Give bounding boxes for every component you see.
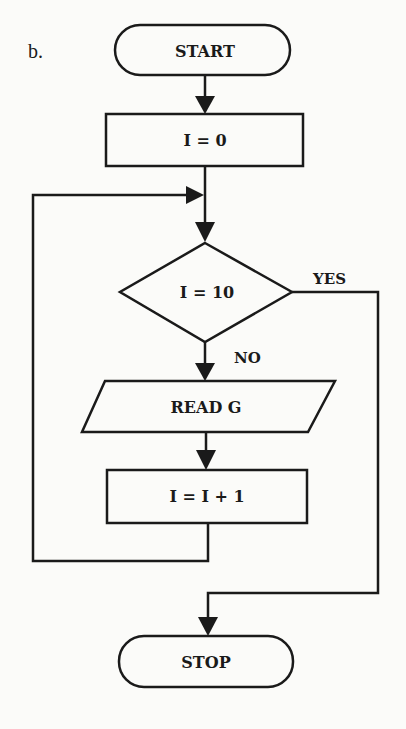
arrow-down-icon xyxy=(195,96,215,114)
decision-text: I = 10 xyxy=(180,283,234,302)
no-label: NO xyxy=(234,349,261,367)
read-node: READ G xyxy=(82,381,335,432)
increment-node: I = I + 1 xyxy=(107,470,307,523)
arrow-down-icon xyxy=(195,363,215,381)
read-text: READ G xyxy=(170,398,241,417)
arrow-down-icon xyxy=(198,617,218,636)
figure-label: b. xyxy=(28,40,43,62)
decision-node: I = 10 xyxy=(120,243,292,342)
stop-node: STOP xyxy=(119,636,293,687)
arrow-down-icon xyxy=(196,450,216,470)
start-node: START xyxy=(115,25,290,75)
connector-yes-to-stop xyxy=(208,292,378,620)
init-text: I = 0 xyxy=(183,131,226,150)
flowchart: b. START I = 0 I = 10 YES NO READ G I = … xyxy=(0,0,406,729)
init-node: I = 0 xyxy=(106,114,303,166)
arrow-down-icon xyxy=(195,222,215,242)
increment-text: I = I + 1 xyxy=(169,487,244,506)
stop-text: STOP xyxy=(181,653,230,672)
yes-label: YES xyxy=(312,270,346,288)
start-text: START xyxy=(175,42,235,61)
